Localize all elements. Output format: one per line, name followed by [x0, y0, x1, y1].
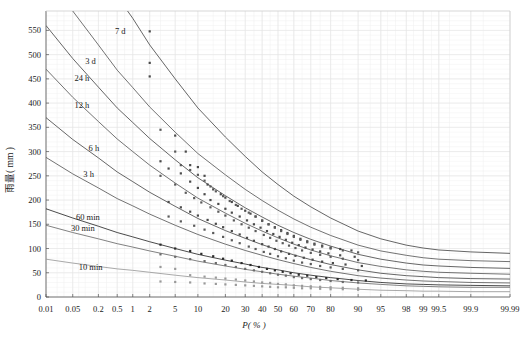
data-point	[197, 166, 199, 168]
x-tick-label: 40	[258, 304, 267, 314]
data-point	[269, 282, 271, 284]
data-point	[217, 203, 219, 205]
data-point	[235, 278, 237, 280]
data-point	[189, 250, 191, 252]
x-tick-label: 0.2	[93, 304, 104, 314]
data-point	[246, 237, 248, 239]
x-tick-label: 30	[241, 304, 250, 314]
data-point	[149, 75, 151, 77]
curve-label-3-d: 3 d	[85, 56, 96, 66]
data-point	[240, 223, 242, 225]
y-tick-label: 350	[28, 122, 41, 132]
data-point	[159, 266, 161, 268]
data-point	[301, 249, 303, 251]
data-point	[224, 264, 226, 266]
data-point	[231, 260, 233, 262]
data-point	[298, 274, 300, 276]
data-point	[180, 172, 182, 174]
data-point	[253, 223, 255, 225]
data-point	[319, 254, 321, 256]
data-point	[254, 248, 256, 250]
data-point	[344, 263, 346, 265]
data-point	[209, 199, 211, 201]
data-point	[261, 220, 263, 222]
data-point	[189, 164, 191, 166]
data-point	[350, 249, 352, 251]
data-point	[291, 242, 293, 244]
data-point	[215, 277, 217, 279]
data-point	[203, 276, 205, 278]
data-point	[185, 192, 187, 194]
x-tick-label: 5	[173, 304, 177, 314]
data-point	[310, 287, 312, 289]
data-point	[303, 257, 305, 259]
data-point	[215, 190, 217, 192]
data-point	[215, 223, 217, 225]
data-point	[357, 281, 359, 283]
data-point	[224, 197, 226, 199]
data-point	[248, 227, 250, 229]
data-point	[159, 280, 161, 282]
data-point	[224, 277, 226, 279]
x-axis-title: P( % )	[241, 320, 266, 330]
data-point	[315, 276, 317, 278]
data-point	[310, 278, 312, 280]
data-point	[330, 280, 332, 282]
data-point	[330, 288, 332, 290]
data-point	[274, 248, 276, 250]
data-point	[357, 269, 359, 271]
data-point	[306, 241, 308, 243]
data-point	[342, 249, 344, 251]
data-point	[203, 180, 205, 182]
data-point	[282, 271, 284, 273]
x-tick-label: 80	[326, 304, 335, 314]
data-point	[222, 258, 224, 260]
data-point	[231, 201, 233, 203]
data-point	[298, 244, 300, 246]
data-point	[203, 260, 205, 262]
data-point	[286, 233, 288, 235]
data-point	[277, 286, 279, 288]
data-point	[220, 193, 222, 195]
x-tick-label: 10	[194, 304, 203, 314]
data-point	[224, 214, 226, 216]
data-point	[248, 212, 250, 214]
data-point	[290, 272, 292, 274]
data-point	[159, 175, 161, 177]
data-point	[330, 266, 332, 268]
data-point	[259, 227, 261, 229]
data-point	[261, 271, 263, 273]
x-tick-label: 99.99	[500, 304, 519, 314]
y-tick-label: 300	[28, 147, 41, 157]
data-point	[231, 230, 233, 232]
x-tick-label: 50	[274, 304, 283, 314]
data-point	[189, 274, 191, 276]
data-point	[306, 275, 308, 277]
data-point	[357, 259, 359, 261]
data-point	[310, 285, 312, 287]
data-point	[235, 266, 237, 268]
curve-label-3-h: 3 h	[83, 169, 94, 179]
curve-label-7-d: 7 d	[115, 26, 126, 36]
data-point	[174, 150, 176, 152]
data-point	[174, 256, 176, 258]
data-point	[261, 243, 263, 245]
data-point	[285, 275, 287, 277]
data-point	[168, 201, 170, 203]
data-point	[319, 279, 321, 281]
data-point	[231, 239, 233, 241]
data-point	[321, 245, 323, 247]
data-point	[189, 281, 191, 283]
data-point	[180, 206, 182, 208]
data-point	[301, 287, 303, 289]
data-point	[274, 269, 276, 271]
data-point	[365, 279, 367, 281]
data-point	[189, 181, 191, 183]
data-point	[209, 185, 211, 187]
x-tick-label: 2	[148, 304, 152, 314]
x-tick-label: 0.01	[39, 304, 54, 314]
data-point	[330, 247, 332, 249]
data-point	[342, 288, 344, 290]
curve-label-30-min: 30 min	[71, 223, 96, 233]
data-point	[301, 285, 303, 287]
